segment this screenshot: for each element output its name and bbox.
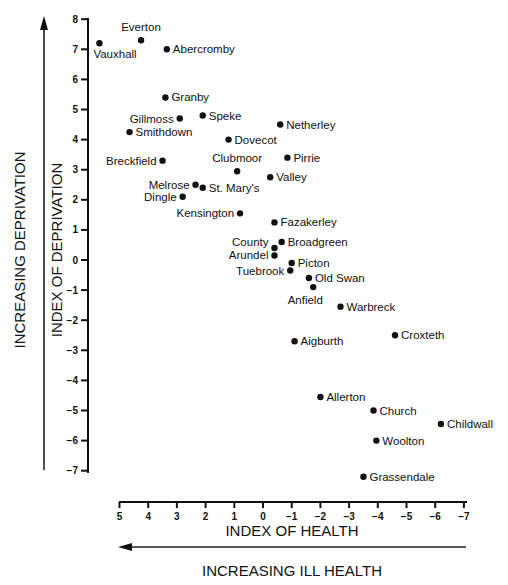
data-point: Clubmoor [212, 152, 262, 174]
point-label: Fazakerley [280, 216, 336, 228]
point-label: Woolton [382, 435, 424, 447]
data-point: Aigburth [291, 335, 343, 347]
point-marker [200, 185, 206, 191]
point-label: Gillmoss [130, 113, 174, 125]
point-marker [287, 267, 293, 273]
point-marker [289, 260, 295, 266]
y-tick-label: 8 [72, 14, 78, 25]
x-tick-label: 1 [232, 511, 238, 522]
x-axis: 543210−1−2−3−4−5−6−7 [117, 502, 470, 522]
point-label: Pirrie [293, 152, 320, 164]
x-axis-title: INDEX OF HEALTH [225, 522, 358, 539]
point-label: St. Mary's [209, 182, 260, 194]
point-label: Croxteth [401, 329, 444, 341]
point-label: Old Swan [315, 272, 365, 284]
y-tick-label: 4 [72, 134, 78, 145]
data-point: Picton [289, 257, 330, 269]
point-marker [159, 157, 165, 163]
data-points: VauxhallEvertonAbercrombyGranbyGillmossS… [93, 21, 493, 482]
point-marker [267, 174, 273, 180]
data-point: Allerton [317, 391, 365, 403]
data-point: Dovecot [225, 134, 277, 146]
y-tick-label: −5 [67, 405, 79, 416]
arrow-up-icon [40, 16, 48, 30]
point-label: Speke [209, 110, 242, 122]
point-label: Netherley [286, 119, 335, 131]
data-point: Granby [162, 91, 209, 103]
point-label: Dingle [144, 191, 177, 203]
y-tick-label: −6 [67, 435, 79, 446]
point-label: Arundel [229, 249, 269, 261]
data-point: Smithdown [126, 126, 192, 138]
x-tick-label: −7 [458, 511, 470, 522]
y-tick-label: −4 [67, 375, 79, 386]
point-label: Allerton [326, 391, 365, 403]
point-marker [438, 421, 444, 427]
point-marker [225, 136, 231, 142]
point-label: Breckfield [106, 155, 157, 167]
y-axis-ticks: 876543210−1−2−3−4−5−6−7 [67, 14, 88, 477]
point-label: Kensington [176, 207, 234, 219]
point-marker [278, 239, 284, 245]
point-marker [179, 194, 185, 200]
x-axis-ticks: 543210−1−2−3−4−5−6−7 [117, 502, 470, 522]
point-marker [271, 252, 277, 258]
data-point: Broadgreen [278, 236, 347, 248]
data-point: Netherley [277, 119, 336, 131]
y-tick-label: 2 [72, 194, 78, 205]
point-label: Warbreck [346, 301, 395, 313]
x-tick-label: 3 [174, 511, 180, 522]
point-marker [370, 407, 376, 413]
data-point: Old Swan [306, 272, 365, 284]
point-label: Church [379, 405, 416, 417]
point-label: Broadgreen [288, 236, 348, 248]
data-point: Everton [121, 21, 161, 43]
point-marker [360, 474, 366, 480]
point-marker [138, 37, 144, 43]
data-point: Speke [200, 110, 242, 122]
data-point: Woolton [373, 435, 424, 447]
point-marker [310, 284, 316, 290]
y-axis-title: INDEX OF DEPRIVATION [48, 163, 65, 337]
data-point: Fazakerley [271, 216, 337, 228]
y-axis: 876543210−1−2−3−4−5−6−7 [67, 14, 88, 477]
point-label: Melrose [149, 179, 190, 191]
point-label: Granby [171, 91, 209, 103]
x-tick-label: −3 [343, 511, 355, 522]
x-tick-label: −1 [286, 511, 298, 522]
point-label: Picton [298, 257, 330, 269]
data-point: Tuebrook [236, 265, 293, 277]
point-label: County [232, 236, 269, 248]
x-tick-label: 4 [145, 511, 151, 522]
data-point: Vauxhall [93, 40, 136, 60]
data-point: Kensington [176, 207, 243, 219]
point-marker [373, 437, 379, 443]
data-point: Croxteth [392, 329, 445, 341]
data-point: Church [370, 405, 416, 417]
point-marker [177, 115, 183, 121]
point-marker [284, 154, 290, 160]
y-tick-label: 6 [72, 74, 78, 85]
scatter-chart: 876543210−1−2−3−4−5−6−7 543210−1−2−3−4−5… [0, 0, 508, 585]
y-tick-label: −1 [67, 285, 79, 296]
data-point: Abercromby [164, 43, 235, 55]
x-tick-label: −6 [429, 511, 441, 522]
y-tick-label: 1 [72, 224, 78, 235]
point-marker [237, 210, 243, 216]
data-point: Breckfield [106, 155, 166, 167]
point-marker [277, 121, 283, 127]
point-label: Aigburth [301, 335, 344, 347]
point-label: Anfield [288, 294, 323, 306]
data-point: Anfield [288, 284, 323, 306]
data-point: Melrose [149, 179, 199, 191]
x-direction-label: INCREASING ILL HEALTH [202, 562, 382, 579]
point-marker [271, 245, 277, 251]
y-tick-label: 5 [72, 104, 78, 115]
point-marker [234, 168, 240, 174]
point-label: Smithdown [136, 126, 193, 138]
point-label: Everton [121, 21, 161, 33]
data-point: Grassendale [360, 471, 434, 483]
increasing-deprivation-arrow [40, 16, 48, 470]
point-label: Dovecot [235, 134, 278, 146]
y-tick-label: 7 [72, 44, 78, 55]
